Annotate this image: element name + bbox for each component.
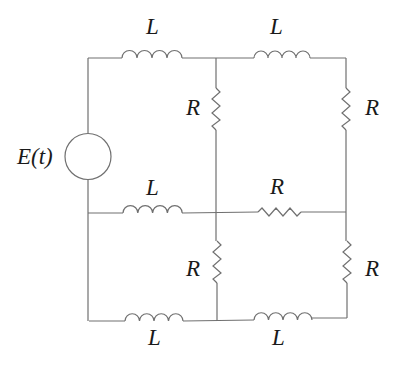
- resistor-icon-upper-right: [342, 88, 350, 130]
- resistor-icon-lower-middle: [213, 241, 221, 283]
- voltage-source-icon: [65, 134, 111, 180]
- label-R-upper-right: R: [364, 95, 379, 120]
- circuit-diagram: E(t) L L L L L R R R R R: [0, 0, 399, 373]
- wires: [88, 58, 347, 321]
- inductor-icon-bottom-left: [125, 314, 183, 321]
- label-L-bottom-right: L: [271, 325, 285, 350]
- wire-middle-2: [182, 212, 258, 213]
- wire-bottom-2: [183, 320, 254, 321]
- inductor-icon-bottom-right: [254, 313, 312, 320]
- label-R-middle-right: R: [269, 174, 284, 199]
- label-R-lower-right: R: [364, 256, 379, 281]
- resistor-icon-upper-middle: [212, 88, 220, 130]
- inductor-icon-top-right: [254, 51, 310, 58]
- label-R-upper-middle: R: [185, 95, 200, 120]
- source-label: E(t): [16, 144, 53, 169]
- label-R-lower-middle: R: [185, 256, 200, 281]
- resistor-icon-lower-right: [343, 241, 351, 283]
- label-L-middle-left: L: [145, 175, 159, 200]
- label-L-bottom-left: L: [147, 325, 161, 350]
- label-L-top-right: L: [269, 14, 283, 39]
- label-L-top-left: L: [145, 14, 159, 39]
- inductor-icon-middle-left: [123, 206, 182, 213]
- inductor-icon-top-left: [122, 51, 182, 59]
- resistor-icon-middle-right: [258, 208, 301, 216]
